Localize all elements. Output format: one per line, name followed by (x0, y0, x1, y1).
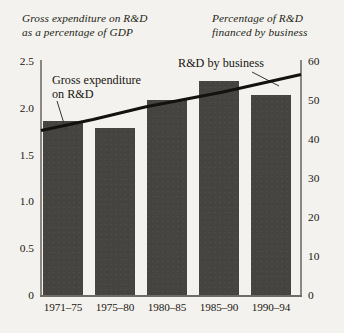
category-label-1975-80: 1975–80 (85, 301, 145, 313)
category-label-1990-94: 1990–94 (241, 301, 301, 313)
annotation-gross-expenditure: Gross expenditure on R&D (52, 73, 141, 102)
annotation-gross-expenditure-line1: Gross expenditure (52, 73, 141, 87)
annotation-rd-by-business: R&D by business (178, 56, 264, 70)
category-label-1985-90: 1985–90 (189, 301, 249, 313)
chart-canvas: Gross expenditure on R&D as a percentage… (0, 0, 344, 333)
category-label-1980-85: 1980–85 (137, 301, 197, 313)
annotation-gross-expenditure-line2: on R&D (52, 87, 141, 101)
overlay-graphics (0, 0, 344, 333)
category-label-1971-75: 1971–75 (33, 301, 93, 313)
